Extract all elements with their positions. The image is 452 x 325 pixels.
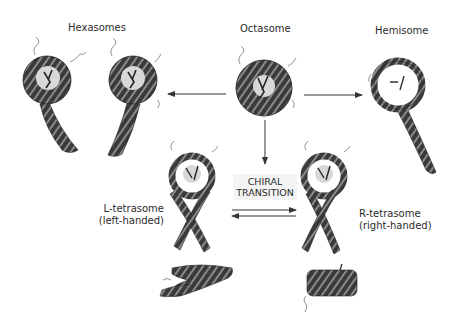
l-tetrasome [170, 141, 218, 252]
l-tetrasome-handedness: (left-handed) [96, 215, 164, 227]
hemisome-label: Hemisome [375, 25, 428, 37]
nucleosome-diagram [0, 0, 452, 325]
hexasome-2 [108, 38, 161, 156]
r-tetrasome-handedness: (right-handed) [359, 220, 432, 232]
r-tetrasome [302, 141, 350, 254]
chiral-line-2: TRANSITION [233, 187, 297, 198]
r-tetrasome-name: R-tetrasome [359, 208, 432, 220]
hexasomes-label: Hexasomes [68, 22, 126, 34]
r-tetrasome-label: R-tetrasome (right-handed) [359, 208, 432, 232]
l-tetrasome-label: L-tetrasome (left-handed) [96, 203, 164, 227]
octasome [236, 46, 296, 116]
l-tetrasome-name: L-tetrasome [96, 203, 164, 215]
chiral-transition-label: CHIRAL TRANSITION [233, 174, 297, 200]
hemisome [369, 61, 436, 174]
r-tetrasome-side-view [304, 264, 357, 312]
octasome-label: Octasome [240, 23, 291, 35]
hexasome-1 [23, 37, 86, 153]
l-tetrasome-side-view [160, 265, 233, 297]
chiral-line-1: CHIRAL [233, 176, 297, 187]
